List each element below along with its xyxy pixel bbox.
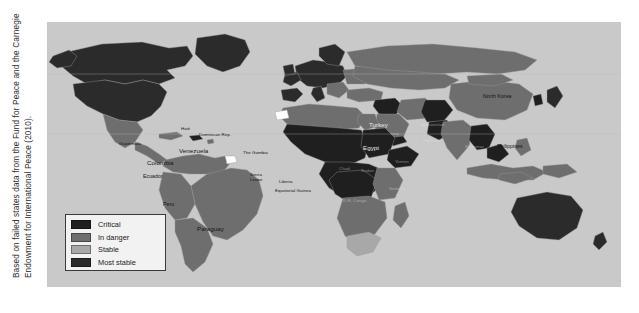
caption-line-1: Based on failed states data from the Fun… bbox=[12, 13, 21, 278]
map-label-ecuador: Ecuador bbox=[143, 174, 163, 179]
map-label-venezuela: Venezuela bbox=[179, 148, 208, 153]
legend-item-in-danger: In danger bbox=[71, 232, 160, 243]
map-label-philippines: Philippines bbox=[497, 144, 523, 149]
map-label-guatemala: Guatemala bbox=[119, 141, 141, 146]
legend-swatch-critical bbox=[71, 220, 91, 229]
map-label-afghanistan: Afghanistan bbox=[421, 122, 445, 127]
legend-swatch-stable bbox=[71, 245, 91, 254]
map-label-north-korea: North Korea bbox=[483, 94, 512, 99]
map-label-colombia: Colombia bbox=[147, 160, 174, 165]
legend-label-in-danger: In danger bbox=[98, 233, 129, 242]
map-label-somalia: Somalia bbox=[389, 186, 405, 191]
map-label-chad: Chad bbox=[339, 166, 350, 171]
map-label-yemen: Yemen bbox=[395, 159, 409, 164]
map-label-peru: Peru bbox=[163, 202, 174, 207]
map-label-paraguay: Paraguay bbox=[197, 226, 224, 231]
map-label-turkey: Turkey bbox=[369, 122, 388, 127]
legend-item-critical: Critical bbox=[71, 219, 160, 230]
map-label-liberia: Liberia bbox=[279, 179, 293, 184]
map-label-egypt: Egypt bbox=[363, 145, 379, 150]
map-label-sudan: Sudan bbox=[361, 168, 374, 173]
map-label-the-gambia: The Gambia bbox=[243, 150, 268, 155]
map-label-pakistan: Pakistan bbox=[423, 138, 440, 143]
legend-swatch-in-danger bbox=[71, 233, 91, 242]
map-label-haiti: Haiti bbox=[181, 126, 190, 131]
world-map-panel: .c-crit{fill:#1f1f1f;} .c-dang{fill:#6e6… bbox=[47, 22, 621, 287]
caption-line-2: Endowment for International Peace (2010)… bbox=[24, 116, 33, 278]
legend-label-most-stable: Most stable bbox=[98, 258, 136, 267]
figure-root: Based on failed states data from the Fun… bbox=[0, 0, 639, 313]
figure-caption: Based on failed states data from the Fun… bbox=[0, 0, 44, 313]
legend-label-stable: Stable bbox=[98, 245, 119, 254]
map-label-equatorial-guinea: Equatorial Guinea bbox=[275, 188, 311, 193]
legend-label-critical: Critical bbox=[98, 220, 121, 229]
map-label-sierra-leone: Sierra Leone bbox=[250, 172, 272, 182]
legend-item-most-stable: Most stable bbox=[71, 257, 160, 268]
map-label-iraq: Iraq bbox=[391, 131, 399, 136]
legend-swatch-most-stable bbox=[71, 258, 91, 267]
map-label-dominican-rep: Dominican Rep. bbox=[199, 132, 231, 137]
map-label-myanmar: Myanmar bbox=[465, 144, 484, 149]
legend-item-stable: Stable bbox=[71, 244, 160, 255]
map-legend: Critical In danger Stable Most stable bbox=[65, 214, 166, 271]
map-label-dr-congo: D.R. Congo bbox=[343, 198, 366, 203]
